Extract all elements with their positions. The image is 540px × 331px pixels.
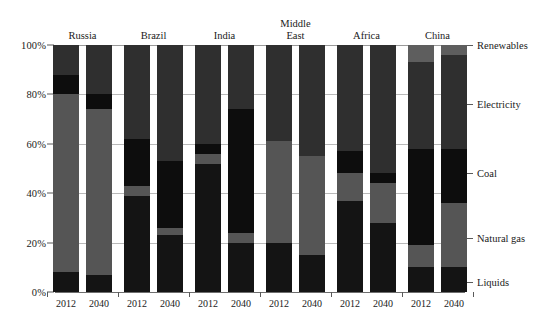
y-axis-label: 20% (26, 237, 46, 248)
segment-liquids (337, 201, 363, 292)
group-separator-tick (260, 292, 261, 297)
segment-electricity (370, 45, 396, 173)
segment-electricity (53, 45, 79, 75)
segment-liquids (228, 243, 254, 292)
segment-coal (124, 139, 150, 186)
segment-coal (53, 75, 79, 95)
segment-liquids (299, 255, 325, 292)
segment-electricity (195, 45, 221, 144)
segment-electricity (299, 45, 325, 156)
legend-tick (466, 173, 473, 174)
x-axis-year-label: 2012 (269, 298, 289, 309)
group-label-africa: Africa (337, 30, 396, 42)
group-separator-tick (331, 292, 332, 297)
segment-liquids (157, 235, 183, 292)
x-axis-year-label: 2040 (89, 298, 109, 309)
segment-natural-gas (299, 156, 325, 255)
y-axis-label: 60% (26, 138, 46, 149)
group-label-middle-east: Middle East (266, 18, 325, 41)
x-axis-year-label: 2040 (231, 298, 251, 309)
legend-tick (466, 104, 473, 105)
segment-coal (337, 151, 363, 173)
segment-coal (408, 149, 434, 245)
segment-liquids (195, 164, 221, 292)
segment-electricity (408, 62, 434, 148)
legend-label-liquids: Liquids (477, 277, 509, 288)
segment-electricity (157, 45, 183, 161)
axis-end-tick (47, 292, 48, 297)
y-axis-label: 40% (26, 188, 46, 199)
x-axis-year-label: 2040 (444, 298, 464, 309)
y-axis-label: 80% (26, 89, 46, 100)
legend-tick (466, 238, 473, 239)
plot-area: 0%20%40%60%80%100%RenewablesElectricityC… (55, 45, 465, 292)
segment-electricity (441, 55, 467, 149)
segment-renewables (441, 45, 467, 55)
segment-natural-gas (370, 183, 396, 223)
legend-tick (466, 282, 473, 283)
segment-electricity (266, 45, 292, 141)
segment-natural-gas (157, 228, 183, 235)
group-label-china: China (408, 30, 467, 42)
segment-coal (441, 149, 467, 203)
y-axis-label: 0% (32, 287, 46, 298)
x-axis-year-label: 2012 (56, 298, 76, 309)
x-axis-year-label: 2040 (302, 298, 322, 309)
gridline-100 (55, 45, 465, 46)
gridline-40 (55, 193, 465, 194)
segment-liquids (408, 267, 434, 292)
legend-label-renewables: Renewables (477, 40, 528, 51)
segment-liquids (124, 196, 150, 292)
group-separator-tick (402, 292, 403, 297)
segment-liquids (53, 272, 79, 292)
group-separator-tick (189, 292, 190, 297)
segment-liquids (266, 243, 292, 292)
group-label-brazil: Brazil (124, 30, 183, 42)
legend-label-coal: Coal (477, 168, 497, 179)
gridline-80 (55, 94, 465, 95)
y-axis-label: 100% (21, 40, 46, 51)
segment-natural-gas (86, 109, 112, 274)
segment-electricity (337, 45, 363, 151)
legend-label-electricity: Electricity (477, 99, 521, 110)
segment-natural-gas (228, 233, 254, 243)
segment-electricity (86, 45, 112, 94)
segment-natural-gas (195, 154, 221, 164)
segment-liquids (441, 267, 467, 292)
segment-renewables (408, 45, 434, 62)
gridline-20 (55, 243, 465, 244)
legend-label-natural-gas: Natural gas (477, 232, 525, 243)
group-separator-tick (118, 292, 119, 297)
group-label-russia: Russia (53, 30, 112, 42)
x-axis-year-label: 2040 (373, 298, 393, 309)
gridline-60 (55, 144, 465, 145)
segment-natural-gas (408, 245, 434, 267)
x-axis-year-label: 2012 (411, 298, 431, 309)
legend-tick (466, 45, 473, 46)
segment-electricity (124, 45, 150, 139)
segment-coal (86, 94, 112, 109)
x-axis-year-label: 2012 (198, 298, 218, 309)
stacked-bar-chart: 0%20%40%60%80%100%RenewablesElectricityC… (0, 0, 540, 331)
segment-coal (195, 144, 221, 154)
segment-natural-gas (337, 173, 363, 200)
x-axis-year-label: 2012 (127, 298, 147, 309)
segment-electricity (228, 45, 254, 109)
segment-coal (157, 161, 183, 228)
axis-end-tick (473, 292, 474, 297)
segment-natural-gas (441, 203, 467, 267)
segment-natural-gas (124, 186, 150, 196)
x-axis-year-label: 2012 (340, 298, 360, 309)
segment-coal (228, 109, 254, 233)
group-label-india: India (195, 30, 254, 42)
segment-liquids (86, 275, 112, 292)
segment-natural-gas (53, 94, 79, 272)
segment-natural-gas (266, 141, 292, 242)
segment-liquids (370, 223, 396, 292)
x-axis-year-label: 2040 (160, 298, 180, 309)
segment-coal (370, 173, 396, 183)
